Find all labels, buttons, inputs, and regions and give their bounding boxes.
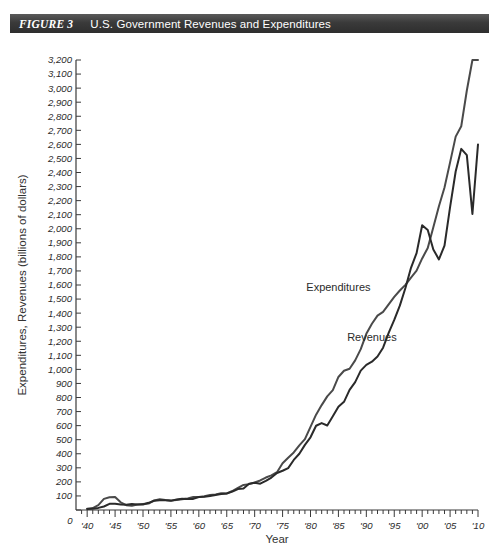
y-tick-label: 1,600 <box>48 279 73 290</box>
x-tick-label: '80 <box>304 520 317 531</box>
x-tick-label: '70 <box>248 520 261 531</box>
x-tick-label: '45 <box>109 520 122 531</box>
series-label-expenditures: Expenditures <box>306 281 371 293</box>
x-axis-title: Year <box>265 533 288 545</box>
y-tick-label: 2,600 <box>47 139 73 150</box>
y-tick-label: 3,000 <box>48 83 73 94</box>
y-tick-label: 200 <box>55 476 73 487</box>
y-tick-label: 300 <box>56 462 73 473</box>
x-axis-ticks: '40'45'50'55'60'65'70'75'80'85'90'95'00'… <box>81 510 485 531</box>
y-tick-label: 1,800 <box>48 251 73 262</box>
y-tick-label: 3,100 <box>48 68 73 79</box>
y-tick-label: 100 <box>56 490 73 501</box>
y-tick-label: 500 <box>56 434 73 445</box>
y-tick-label: 2,900 <box>47 97 73 108</box>
y-tick-label: 900 <box>56 378 73 389</box>
y-tick-label: 800 <box>56 392 73 403</box>
chart-container: 1002003004005006007008009001,0001,1001,2… <box>0 0 499 558</box>
x-tick-label: '55 <box>165 520 178 531</box>
y-tick-label: 1,300 <box>48 322 73 333</box>
y-axis-title: Expenditures, Revenues (billions of doll… <box>16 174 28 395</box>
y-tick-label: 2,300 <box>47 181 73 192</box>
series-line-revenues <box>87 144 478 509</box>
x-tick-label: '65 <box>220 520 233 531</box>
y-tick-label: 600 <box>56 420 73 431</box>
x-tick-label: '50 <box>137 520 150 531</box>
x-tick-label: '75 <box>276 520 289 531</box>
revenues-expenditures-line-chart: 1002003004005006007008009001,0001,1001,2… <box>0 0 499 558</box>
x-tick-label: '00 <box>416 520 429 531</box>
y-tick-label: 1,200 <box>48 336 73 347</box>
y-tick-label: 1,900 <box>48 237 73 248</box>
y-tick-label: 2,200 <box>47 195 73 206</box>
x-tick-label: '90 <box>360 520 373 531</box>
y-tick-label: 2,000 <box>47 223 73 234</box>
y-tick-label: 400 <box>56 448 73 459</box>
y-tick-label: 1,500 <box>48 293 73 304</box>
y-tick-label: 2,500 <box>47 153 73 164</box>
chart-series-group <box>87 60 478 509</box>
y-tick-label: 2,700 <box>47 125 73 136</box>
y-tick-label: 2,800 <box>47 111 73 122</box>
x-tick-label: '05 <box>444 520 457 531</box>
x-tick-label: '60 <box>193 520 206 531</box>
x-axis-origin-label: 0 <box>67 515 73 526</box>
chart-axes <box>76 60 478 510</box>
x-tick-label: '40 <box>81 520 94 531</box>
y-tick-label: 1,400 <box>48 308 73 319</box>
y-tick-label: 1,000 <box>48 364 73 375</box>
x-tick-label: '85 <box>332 520 345 531</box>
y-tick-label: 2,100 <box>47 209 73 220</box>
y-tick-label: 2,400 <box>47 167 73 178</box>
y-tick-label: 1,700 <box>48 265 73 276</box>
y-tick-label: 700 <box>56 406 73 417</box>
x-tick-label: '95 <box>388 520 401 531</box>
y-tick-label: 1,100 <box>48 350 73 361</box>
y-tick-label: 3,200 <box>48 54 73 65</box>
series-label-revenues: Revenues <box>347 331 397 343</box>
series-line-expenditures <box>87 60 478 509</box>
x-tick-label: '10 <box>472 520 485 531</box>
